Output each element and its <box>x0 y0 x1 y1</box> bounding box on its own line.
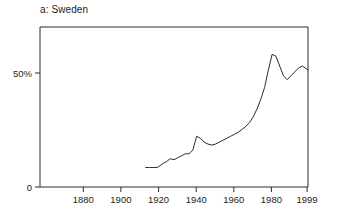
line-chart-plot: 50% 0 1880 1900 1920 1940 1960 1980 1999 <box>0 0 337 221</box>
chart-figure: a: Sweden 50% 0 1880 1900 1920 1940 <box>0 0 337 221</box>
y-axis: 50% 0 <box>13 68 40 193</box>
plot-frame <box>40 27 308 187</box>
x-tick-label-1920: 1920 <box>148 194 169 205</box>
y-tick-label-50: 50% <box>13 68 33 79</box>
x-tick-label-1999: 1999 <box>297 194 318 205</box>
x-tick-label-1900: 1900 <box>110 194 131 205</box>
x-tick-label-1880: 1880 <box>73 194 94 205</box>
data-series-line-sweden <box>146 54 308 167</box>
x-tick-label-1980: 1980 <box>261 194 282 205</box>
x-axis: 1880 1900 1920 1940 1960 1980 1999 <box>73 187 318 205</box>
x-tick-label-1940: 1940 <box>186 194 207 205</box>
y-tick-label-0: 0 <box>27 182 32 193</box>
x-tick-label-1960: 1960 <box>223 194 244 205</box>
